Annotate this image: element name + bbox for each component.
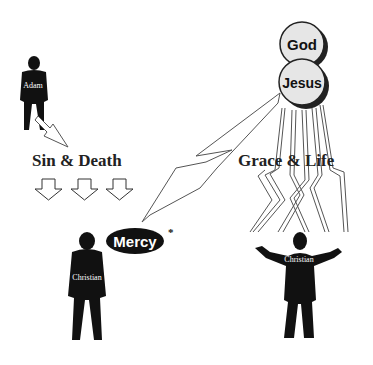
sin-death-arrows (35, 179, 133, 200)
christian-left-label: Christian (72, 273, 101, 282)
god-label: God (287, 36, 317, 53)
sin-death-heading: Sin & Death (32, 151, 122, 170)
mercy-label: Mercy (113, 233, 157, 250)
christian-right-label: Christian (284, 255, 313, 264)
grace-life-heading: Grace & Life (238, 151, 335, 170)
adam-figure: Adam (20, 56, 48, 130)
jesus-circle: Jesus (279, 59, 329, 109)
jesus-label: Jesus (282, 75, 322, 91)
christian-left-figure: Christian (68, 232, 106, 340)
down-arrow-icon (106, 179, 133, 200)
mercy-badge: Mercy * (106, 226, 174, 254)
mercy-footnote-mark: * (168, 226, 174, 238)
diagram-canvas: Adam Sin & Death God Jesus Grace & Life … (0, 0, 373, 365)
christian-right-figure: Christian (255, 232, 342, 338)
down-arrow-icon (35, 179, 62, 200)
down-arrow-icon (71, 179, 98, 200)
adam-label: Adam (23, 81, 43, 90)
adam-to-sin-arrow (35, 116, 68, 147)
